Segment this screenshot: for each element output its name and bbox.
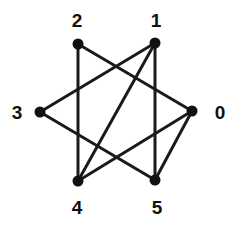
graph-vertex-2 [73,39,84,50]
vertex-label-4: 4 [72,198,83,217]
graph-vertex-0 [187,106,198,117]
edge-layer [40,43,192,181]
vertex-label-3: 3 [12,103,23,122]
graph-vertex-5 [150,175,161,186]
vertex-label-2: 2 [72,11,83,30]
graph-vertex-4 [73,176,84,187]
graph-canvas [0,0,240,226]
vertex-label-1: 1 [151,11,162,30]
graph-vertex-3 [35,107,46,118]
vertex-label-0: 0 [215,103,226,122]
graph-edge [78,43,155,181]
graph-vertex-1 [150,38,161,49]
graph-figure: 012345 [0,0,240,226]
vertex-label-5: 5 [152,198,163,217]
